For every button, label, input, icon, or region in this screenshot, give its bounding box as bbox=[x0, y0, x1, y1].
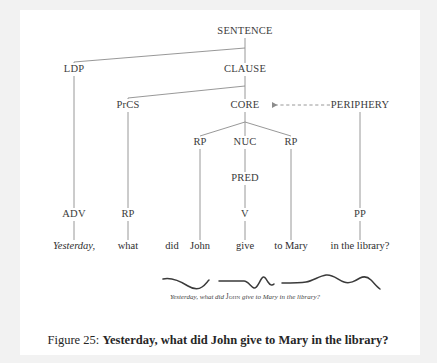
node-v: V bbox=[241, 209, 249, 220]
word-in-the-library: in the library? bbox=[331, 241, 390, 252]
word-yesterday: Yesterday, bbox=[53, 241, 95, 252]
edge-core-rp-right bbox=[245, 122, 291, 136]
node-sentence: SENTENCE bbox=[217, 26, 272, 37]
node-adv: ADV bbox=[62, 209, 85, 220]
word-give: give bbox=[236, 241, 254, 252]
rrg-tree-figure: SENTENCE LDP CLAUSE PrCS CORE PERIPHERY … bbox=[0, 0, 437, 363]
edge-clause-prcs bbox=[128, 86, 245, 98]
edge-core-rp-left bbox=[200, 122, 245, 136]
node-rp-prcs: RP bbox=[121, 209, 134, 220]
prosody-transcript-focus: John bbox=[226, 292, 241, 301]
figure-caption-number: Figure 25: bbox=[48, 333, 100, 347]
word-john: John bbox=[190, 241, 210, 252]
edge-sentence-ldp bbox=[74, 48, 245, 62]
node-clause: CLAUSE bbox=[224, 64, 266, 75]
prosody-contour-segment-1 bbox=[163, 278, 209, 288]
word-did: did bbox=[165, 241, 178, 252]
prosody-contour-segment-2 bbox=[219, 277, 274, 288]
prosody-transcript: Yesterday, what did John give to Mary in… bbox=[170, 293, 320, 301]
prosody-contour-segment-3 bbox=[282, 275, 380, 289]
word-what: what bbox=[118, 241, 138, 252]
prosody-transcript-post: give to Mary in the library? bbox=[240, 293, 320, 301]
node-pred: PRED bbox=[231, 173, 259, 184]
figure-caption-title: Yesterday, what did John give to Mary in… bbox=[102, 333, 388, 347]
figure-caption: Figure 25: Yesterday, what did John give… bbox=[48, 334, 389, 347]
node-pp: PP bbox=[354, 209, 366, 220]
word-to-mary: to Mary bbox=[274, 241, 308, 252]
node-prcs: PrCS bbox=[117, 100, 140, 111]
node-rp-right: RP bbox=[284, 137, 297, 148]
node-periphery: PERIPHERY bbox=[331, 100, 389, 111]
tree-lines bbox=[0, 0, 437, 363]
node-core: CORE bbox=[231, 100, 260, 111]
prosody-transcript-pre: Yesterday, what did bbox=[170, 293, 226, 301]
node-rp-left: RP bbox=[193, 137, 206, 148]
figure-page: SENTENCE LDP CLAUSE PrCS CORE PERIPHERY … bbox=[0, 0, 437, 363]
node-nuc: NUC bbox=[234, 137, 257, 148]
node-ldp: LDP bbox=[64, 64, 84, 75]
